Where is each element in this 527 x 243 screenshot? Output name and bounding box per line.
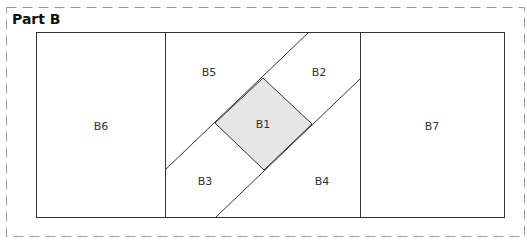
diagonal-lower: [216, 79, 360, 217]
label-b7: B7: [425, 120, 440, 133]
part-title: Part B: [12, 11, 60, 27]
label-b2: B2: [312, 66, 327, 79]
label-b5: B5: [202, 66, 217, 79]
part-b-diagram: B1 B2 B3 B4 B5 B6 B7: [0, 0, 527, 243]
label-b1: B1: [256, 118, 271, 131]
label-b3: B3: [198, 175, 213, 188]
label-b6: B6: [94, 120, 109, 133]
label-b4: B4: [315, 175, 330, 188]
